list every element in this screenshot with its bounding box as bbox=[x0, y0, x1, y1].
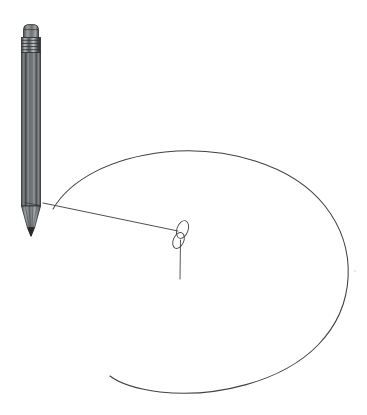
pencil-group bbox=[22, 25, 41, 237]
paper-background bbox=[0, 0, 367, 415]
pencil-barrel bbox=[22, 52, 41, 206]
pencil-string-ellipse-figure bbox=[0, 0, 367, 415]
pin-shaft bbox=[180, 240, 181, 279]
pencil-ferrule bbox=[22, 38, 41, 53]
scan-speck bbox=[354, 270, 356, 272]
illustration-stage: Drawing an ellipse with pencil, string a… bbox=[0, 0, 367, 415]
pencil-eraser bbox=[24, 25, 39, 38]
